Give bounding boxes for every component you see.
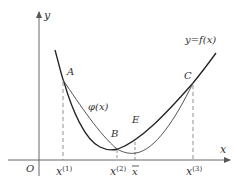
tick-x2: x(2): [110, 165, 126, 178]
f-curve-label: y=f(x): [184, 34, 216, 45]
phi-curve-label: φ(x): [88, 101, 109, 112]
point-b-label: B: [110, 128, 118, 139]
origin-label: O: [26, 163, 34, 174]
f-curve: [55, 50, 216, 150]
phi-curve: [63, 80, 193, 153]
point-c-label: C: [184, 70, 192, 81]
tick-x3: x(3): [186, 165, 202, 178]
tick-xbar: x: [132, 166, 138, 177]
y-axis-label: y: [43, 9, 51, 22]
point-e-label: E: [131, 114, 140, 125]
point-a-label: A: [66, 66, 74, 77]
diagram-canvas: y x O y=f(x) φ(x) A B C E x(1) x(2) x x(…: [0, 0, 237, 185]
x-axis-label: x: [220, 143, 227, 156]
tick-x1: x(1): [56, 165, 72, 178]
